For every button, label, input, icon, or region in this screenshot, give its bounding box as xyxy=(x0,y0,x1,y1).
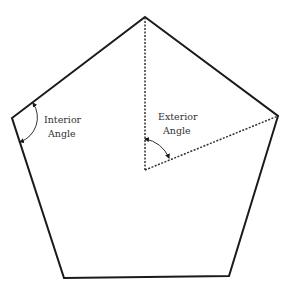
interior-angle-label-line1: Interior xyxy=(44,114,82,125)
exterior-angle-label-line2: Angle xyxy=(162,125,191,136)
pentagon-diagram: Interior Angle Exterior Angle xyxy=(0,0,291,291)
exterior-angle-arc xyxy=(145,139,169,158)
exterior-angle-label-line1: Exterior xyxy=(158,111,198,122)
interior-angle-label-line2: Angle xyxy=(47,128,76,139)
